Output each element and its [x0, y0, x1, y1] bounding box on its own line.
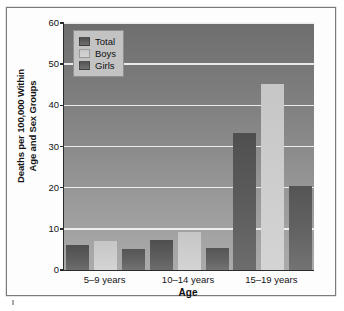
- legend-item-total: Total: [79, 36, 116, 47]
- bar-boys-15-19-years: [261, 84, 284, 270]
- y-tick-mark-50: [60, 63, 64, 65]
- y-tick-label-20: 20: [37, 182, 59, 193]
- legend-label-total: Total: [95, 36, 115, 47]
- y-tick-mark-10: [60, 228, 64, 230]
- y-axis-title-line1: Deaths per 100,000 Within: [15, 69, 26, 183]
- legend-label-boys: Boys: [95, 48, 116, 59]
- bar-total-5-9-years: [66, 245, 89, 270]
- legend-swatch-total: [79, 37, 90, 46]
- bar-boys-5-9-years: [94, 241, 117, 270]
- y-tick-mark-60: [60, 22, 64, 24]
- gridline-60: [64, 22, 314, 24]
- y-tick-label-10: 10: [37, 223, 59, 234]
- bar-total-15-19-years: [233, 133, 256, 270]
- y-tick-label-0: 0: [37, 264, 59, 275]
- bar-boys-10-14-years: [178, 232, 201, 270]
- x-tick-label-5-9-years: 5–9 years: [84, 274, 126, 285]
- y-tick-label-60: 60: [37, 17, 59, 28]
- y-axis-tick-labels: 0102030405060: [35, 8, 59, 297]
- y-tick-mark-30: [60, 146, 64, 148]
- chart-legend: Total Boys Girls: [73, 30, 124, 77]
- page-speckle-mark: [12, 300, 14, 305]
- bar-total-10-14-years: [150, 240, 173, 270]
- legend-label-girls: Girls: [95, 60, 115, 71]
- x-axis-tick-labels: 5–9 years10–14 years15–19 years: [63, 274, 313, 288]
- y-tick-mark-20: [60, 187, 64, 189]
- plot-area: Total Boys Girls: [63, 23, 314, 271]
- y-tick-mark-0: [60, 269, 64, 271]
- legend-item-girls: Girls: [79, 60, 116, 71]
- y-tick-label-30: 30: [37, 141, 59, 152]
- legend-item-boys: Boys: [79, 48, 116, 59]
- y-tick-label-50: 50: [37, 58, 59, 69]
- x-tick-label-15-19-years: 15–19 years: [245, 274, 297, 285]
- chart-figure: Deaths per 100,000 Within Age and Sex Gr…: [6, 7, 336, 296]
- x-tick-label-10-14-years: 10–14 years: [162, 274, 214, 285]
- y-tick-mark-40: [60, 105, 64, 107]
- legend-swatch-girls: [79, 61, 90, 70]
- legend-swatch-boys: [79, 49, 90, 58]
- bar-girls-5-9-years: [122, 249, 145, 270]
- y-tick-label-40: 40: [37, 99, 59, 110]
- bar-girls-15-19-years: [289, 186, 312, 270]
- x-axis-title: Age: [63, 287, 313, 298]
- bar-girls-10-14-years: [206, 248, 229, 270]
